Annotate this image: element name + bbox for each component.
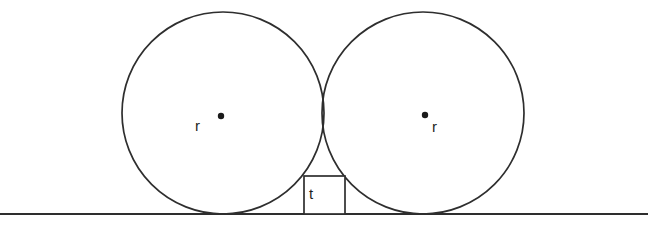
left-circle — [122, 12, 324, 214]
right-radius-label: r — [432, 118, 437, 135]
right-circle-center-dot — [422, 112, 428, 118]
left-radius-label: r — [195, 117, 200, 134]
geometry-figure: r r t — [0, 0, 651, 236]
geometry-diagram-canvas: r r t — [0, 0, 651, 236]
left-circle-center-dot — [218, 113, 224, 119]
